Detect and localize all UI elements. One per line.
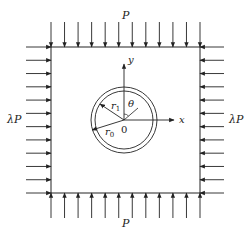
plate-diagram: P P λP λP y x 0 θ r1 r0 bbox=[0, 0, 251, 234]
origin-label: 0 bbox=[121, 124, 127, 135]
top-load-label: P bbox=[121, 9, 130, 22]
bottom-load-arrows bbox=[51, 193, 200, 218]
left-load-arrows bbox=[26, 47, 51, 193]
angle-arc bbox=[124, 114, 129, 116]
angle-label: θ bbox=[128, 98, 134, 109]
inner-radius-label: r1 bbox=[111, 100, 120, 113]
left-load-label: λP bbox=[6, 113, 22, 126]
right-load-arrows bbox=[200, 47, 224, 193]
y-axis-label: y bbox=[127, 54, 134, 65]
outer-radius-label: r0 bbox=[105, 126, 114, 139]
right-load-label: λP bbox=[228, 113, 244, 126]
x-axis-label: x bbox=[179, 114, 185, 125]
top-load-arrows bbox=[51, 22, 200, 47]
diagram-canvas: P P λP λP y x 0 θ r1 r0 bbox=[0, 0, 251, 234]
bottom-load-label: P bbox=[121, 217, 130, 230]
